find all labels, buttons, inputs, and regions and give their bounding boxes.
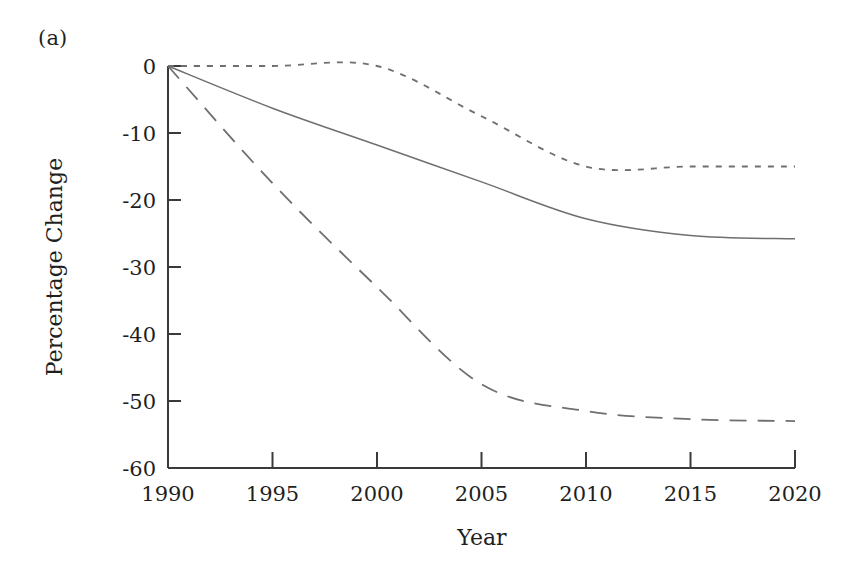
y-axis-tick-labels: 0-10-20-30-40-50-60 [122,55,156,481]
series-dashed-series [168,66,795,421]
series-dotted-series [168,62,795,170]
chart-canvas: 0-10-20-30-40-50-60 19901995200020052010… [0,0,856,572]
x-tick-label: 2000 [350,482,403,506]
x-tick-label: 2020 [768,482,821,506]
y-axis-ticks [168,66,181,468]
y-tick-label: -10 [122,122,156,146]
x-tick-label: 2010 [559,482,612,506]
axis-lines [168,66,795,468]
data-series-layer [168,62,795,421]
y-tick-label: -50 [122,390,156,414]
y-tick-label: -30 [122,256,156,280]
figure-panel: (a) 0-10-20-30-40-50-60 1990199520002005… [0,0,856,572]
y-tick-label: -60 [122,457,156,481]
x-axis-tick-labels: 1990199520002005201020152020 [141,482,821,506]
x-tick-label: 2015 [664,482,717,506]
series-solid-series [168,66,795,239]
x-tick-label: 1990 [141,482,194,506]
y-tick-label: 0 [143,55,156,79]
panel-label: (a) [38,26,68,50]
x-axis-title: Year [456,525,507,550]
x-axis-ticks [273,452,796,468]
x-tick-label: 1995 [246,482,299,506]
y-tick-label: -40 [122,323,156,347]
y-axis-title: Percentage Change [42,158,67,376]
y-tick-label: -20 [122,189,156,213]
x-tick-label: 2005 [455,482,508,506]
